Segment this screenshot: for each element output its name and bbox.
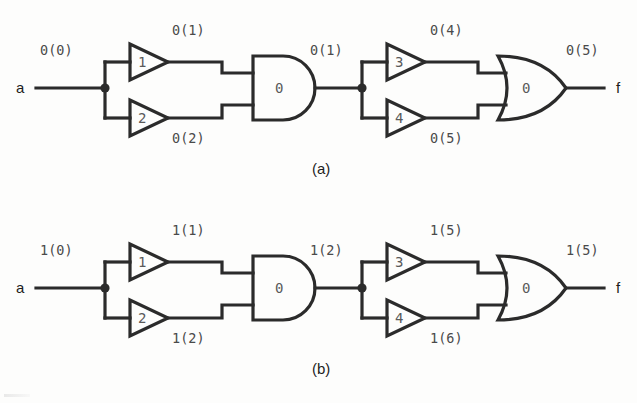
scan-edge-artifact xyxy=(4,394,30,397)
buffer-2-body xyxy=(130,100,168,136)
buffer-1-body xyxy=(130,44,168,80)
fanout-node-2 xyxy=(357,83,366,92)
wire-buffer4-to-or xyxy=(425,105,506,118)
signal-label-or-out: 0(5) xyxy=(566,42,599,58)
signal-label-buffer-4-out: 0(5) xyxy=(430,130,463,146)
wire-buffer1-to-and xyxy=(168,62,253,73)
or-gate-delay: 0 xyxy=(522,80,530,96)
signal-label-buffer-3-out: 0(4) xyxy=(430,22,463,38)
wire-buffer4-to-or xyxy=(425,305,506,318)
and-gate-delay: 0 xyxy=(275,80,283,96)
output-port-label-f: f xyxy=(616,79,620,96)
buffer-4-body xyxy=(387,100,425,136)
signal-label-buffer-2-out: 0(2) xyxy=(172,130,205,146)
buffer-3-number: 3 xyxy=(395,254,403,270)
input-port-label-a: a xyxy=(16,279,24,296)
signal-label-buffer-3-out: 1(5) xyxy=(430,222,463,238)
or-gate-body xyxy=(498,56,566,120)
buffer-2-number: 2 xyxy=(138,310,146,326)
wire-buffer2-to-and xyxy=(168,305,253,318)
fanout-node-1 xyxy=(100,283,109,292)
or-gate-body xyxy=(498,256,566,320)
signal-label-buffer-1-out: 0(1) xyxy=(172,22,205,38)
and-gate-delay: 0 xyxy=(275,280,283,296)
buffer-2-number: 2 xyxy=(138,110,146,126)
panel-caption-a: (a) xyxy=(312,160,330,177)
circuit-panel-b: a f 1(0) 1(1) 1(2) 1(2) 1(5) 1(6) 1(5) 1… xyxy=(0,200,637,400)
buffer-1-number: 1 xyxy=(138,254,146,270)
buffer-3-number: 3 xyxy=(395,54,403,70)
input-port-label-a: a xyxy=(16,79,24,96)
signal-label-input: 1(0) xyxy=(40,242,73,258)
panel-caption-b: (b) xyxy=(312,360,330,377)
signal-label-and-out: 1(2) xyxy=(310,242,343,258)
or-gate-delay: 0 xyxy=(522,280,530,296)
buffer-1-number: 1 xyxy=(138,54,146,70)
signal-label-or-out: 1(5) xyxy=(566,242,599,258)
and-gate-body xyxy=(253,56,315,120)
buffer-4-body xyxy=(387,300,425,336)
circuit-panel-a: a f 0(0) 0(1) 0(2) 0(1) 0(4) 0(5) 0(5) 1… xyxy=(0,0,637,200)
fanout-node-2 xyxy=(357,283,366,292)
wire-buffer3-to-or xyxy=(425,262,506,273)
signal-label-buffer-2-out: 1(2) xyxy=(172,330,205,346)
buffer-4-number: 4 xyxy=(395,110,403,126)
wire-buffer1-to-and xyxy=(168,262,253,273)
signal-label-and-out: 0(1) xyxy=(310,42,343,58)
buffer-3-body xyxy=(387,244,425,280)
fanout-node-1 xyxy=(100,83,109,92)
buffer-4-number: 4 xyxy=(395,310,403,326)
buffer-3-body xyxy=(387,44,425,80)
and-gate-body xyxy=(253,256,315,320)
signal-label-input: 0(0) xyxy=(40,42,73,58)
wire-buffer2-to-and xyxy=(168,105,253,118)
signal-label-buffer-1-out: 1(1) xyxy=(172,222,205,238)
signal-label-buffer-4-out: 1(6) xyxy=(430,330,463,346)
output-port-label-f: f xyxy=(616,279,620,296)
buffer-1-body xyxy=(130,244,168,280)
wire-buffer3-to-or xyxy=(425,62,506,73)
buffer-2-body xyxy=(130,300,168,336)
